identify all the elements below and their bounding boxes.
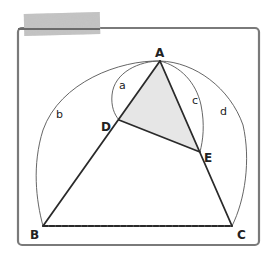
diagram-frame	[18, 28, 259, 245]
segment-ab	[43, 61, 160, 226]
label-point-d: D	[101, 120, 111, 134]
label-point-c: C	[237, 228, 246, 242]
geometry-diagram: A B C D E a b c d	[0, 0, 273, 257]
tape-strip	[24, 12, 101, 36]
arc-d	[160, 61, 247, 226]
label-point-e: E	[204, 151, 212, 165]
label-arc-c: c	[192, 94, 198, 107]
label-arc-b: b	[56, 108, 63, 121]
segment-ac	[160, 61, 232, 226]
label-point-a: A	[155, 46, 165, 60]
label-point-b: B	[30, 228, 39, 242]
label-arc-d: d	[220, 105, 227, 118]
shaded-triangle-ade	[119, 61, 200, 152]
label-arc-a: a	[119, 79, 126, 92]
